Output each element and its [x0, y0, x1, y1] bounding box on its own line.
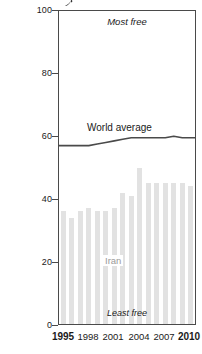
x-tick-label: 2010 [178, 331, 200, 342]
y-tick-mark [52, 325, 58, 326]
y-tick-label: 60 [42, 131, 52, 141]
y-tick-label: 80 [42, 68, 52, 78]
series-label-world-average: World average [85, 122, 154, 133]
stray-mark-icon [64, 0, 74, 8]
plot-area: Most free World average Iran Least free [58, 10, 196, 325]
y-axis: 100 80 60 40 20 0 [0, 0, 58, 354]
world-average-line [59, 136, 195, 145]
line-series-world-average [59, 11, 195, 324]
y-tick-label: 40 [42, 194, 52, 204]
x-tick-label: 1995 [52, 331, 74, 342]
x-tick-label: 2007 [153, 331, 174, 342]
chart-root: 100 80 60 40 20 0 Most free World averag… [0, 0, 202, 354]
series-label-iran: Iran [103, 255, 123, 266]
x-axis: 1995 1998 2001 2004 2007 2010 [0, 327, 202, 354]
x-tick-label: 2004 [128, 331, 149, 342]
x-tick-label: 1998 [77, 331, 98, 342]
x-tick-label: 2001 [102, 331, 123, 342]
annotation-least-free: Least free [107, 308, 147, 318]
plot-inner: Most free World average Iran Least free [59, 11, 195, 324]
y-tick-label: 100 [37, 5, 52, 15]
y-tick-label: 20 [42, 257, 52, 267]
